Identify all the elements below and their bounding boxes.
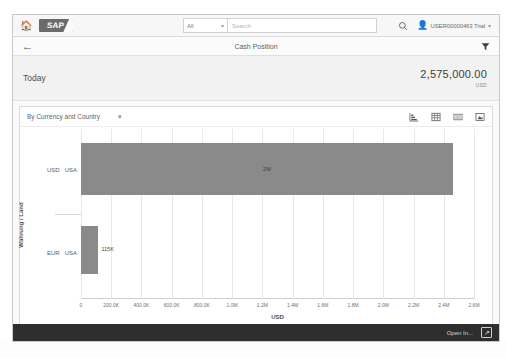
gridline bbox=[474, 129, 475, 299]
list-view-icon-svg bbox=[453, 112, 463, 122]
app-window: 🏠 SAP All ▾ Search bbox=[12, 14, 500, 342]
category-country: USA bbox=[65, 250, 77, 256]
dimension-select-label: By Currency and Country bbox=[27, 113, 100, 120]
kpi-value-group: 2,575,000.00 USD bbox=[420, 68, 489, 87]
x-axis-tick-label: 400.0K bbox=[134, 302, 150, 308]
caption-strip bbox=[12, 345, 312, 355]
x-axis-tick-label: 800.0K bbox=[194, 302, 210, 308]
chart-toolbar: By Currency and Country ▾ bbox=[20, 107, 492, 127]
bar-value-label: 2M bbox=[263, 166, 271, 172]
fullscreen-icon-svg bbox=[475, 112, 485, 122]
x-axis-tick-labels: 0200.0K400.0K600.0K800.0K1.0M1.2M1.4M1.6… bbox=[81, 302, 474, 312]
kpi-period-label: Today bbox=[23, 73, 46, 83]
x-axis-tick-label: 1.6M bbox=[317, 302, 328, 308]
x-axis-tick-label: 2.2M bbox=[408, 302, 419, 308]
plot-area: 2M115K bbox=[81, 129, 474, 299]
search-scope-value: All bbox=[187, 23, 194, 29]
filter-icon-svg bbox=[481, 42, 490, 51]
sap-logo[interactable]: SAP bbox=[39, 19, 73, 32]
fullscreen-icon[interactable] bbox=[474, 111, 485, 122]
kpi-band: Today 2,575,000.00 USD bbox=[13, 56, 499, 101]
x-axis-title: USD bbox=[81, 314, 474, 320]
table-view-icon[interactable] bbox=[430, 111, 441, 122]
x-axis-tick-label: 2.0M bbox=[378, 302, 389, 308]
x-axis-tick-label: 2.4M bbox=[438, 302, 449, 308]
kpi-unit: USD bbox=[420, 82, 487, 88]
home-icon[interactable]: 🏠 bbox=[19, 19, 32, 32]
page-header: ← Cash Position bbox=[13, 37, 499, 56]
user-avatar-icon: 👤 bbox=[418, 20, 427, 31]
chart-view-icon-svg bbox=[409, 112, 419, 122]
page-margin-top bbox=[0, 0, 506, 14]
y-axis-tick-label: EUR USA bbox=[47, 250, 77, 256]
open-in-button[interactable]: Open In... bbox=[447, 330, 473, 336]
search-input[interactable]: Search bbox=[227, 18, 377, 33]
chart-view-icon[interactable] bbox=[408, 111, 419, 122]
sap-logo-text: SAP bbox=[47, 21, 65, 30]
y-axis-category-labels: USD USA EUR USA bbox=[38, 127, 80, 299]
bar[interactable]: 2M bbox=[81, 143, 453, 195]
category-currency: EUR bbox=[47, 250, 60, 256]
page-margin-right bbox=[500, 0, 506, 342]
back-arrow-icon[interactable]: ← bbox=[21, 40, 34, 53]
chevron-down-icon: ▾ bbox=[221, 23, 224, 29]
y-axis-tick-label: USD USA bbox=[47, 167, 77, 173]
shell-bar: 🏠 SAP All ▾ Search bbox=[13, 15, 499, 37]
x-axis-tick-label: 1.4M bbox=[287, 302, 298, 308]
bar[interactable] bbox=[81, 226, 98, 274]
category-divider bbox=[55, 214, 81, 215]
category-currency: USD bbox=[47, 167, 60, 173]
x-axis-tick-label: 1.2M bbox=[257, 302, 268, 308]
search-placeholder: Search bbox=[232, 23, 251, 29]
search-scope-dropdown[interactable]: All ▾ bbox=[183, 18, 227, 33]
x-axis-tick-label: 1.8M bbox=[348, 302, 359, 308]
search-icon-svg bbox=[398, 21, 408, 31]
chevron-down-icon: ▾ bbox=[488, 23, 491, 29]
kpi-value: 2,575,000.00 bbox=[420, 68, 487, 80]
filter-icon[interactable] bbox=[479, 40, 491, 52]
x-axis-tick-label: 200.0K bbox=[103, 302, 119, 308]
x-axis-tick-label: 0 bbox=[80, 302, 83, 308]
shell-search-group: All ▾ Search bbox=[183, 18, 377, 33]
page-title: Cash Position bbox=[13, 43, 499, 50]
chart-card: By Currency and Country ▾ bbox=[19, 106, 493, 328]
bar-value-label: 115K bbox=[101, 246, 113, 252]
y-axis-title: Währung / Land bbox=[18, 202, 24, 247]
chevron-down-icon: ▾ bbox=[118, 113, 122, 120]
chart-plot: Währung / Land USD USA EUR USA 2M115K bbox=[20, 127, 492, 327]
page-margin-left bbox=[0, 0, 12, 342]
footer-bar: Open In... ↗ bbox=[13, 324, 499, 341]
x-axis-tick-label: 1.0M bbox=[227, 302, 238, 308]
user-menu[interactable]: 👤 USER00000463 Trial ▾ bbox=[418, 20, 493, 31]
search-icon[interactable] bbox=[396, 19, 410, 33]
list-view-icon[interactable] bbox=[452, 111, 463, 122]
screenshot-root: 🏠 SAP All ▾ Search bbox=[0, 0, 506, 358]
x-axis-tick-label: 600.0K bbox=[164, 302, 180, 308]
dimension-select-dropdown[interactable]: By Currency and Country ▾ bbox=[27, 113, 122, 120]
share-icon[interactable]: ↗ bbox=[481, 327, 492, 338]
x-axis-line bbox=[81, 298, 474, 299]
chart-toolbar-icons bbox=[408, 111, 485, 122]
table-view-icon-svg bbox=[431, 112, 441, 122]
x-axis-tick-label: 2.6M bbox=[468, 302, 479, 308]
user-name-label: USER00000463 Trial bbox=[430, 23, 485, 29]
category-country: USA bbox=[65, 167, 77, 173]
